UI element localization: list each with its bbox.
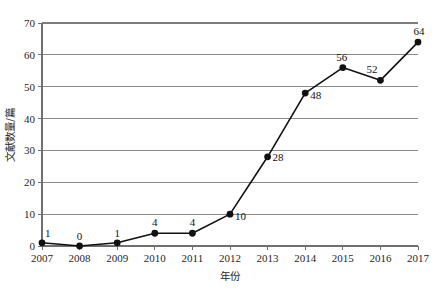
data-point-label-2010: 4 <box>152 216 158 228</box>
chart-background <box>0 0 441 293</box>
x-tick-label-2009: 2009 <box>106 252 129 264</box>
x-tick-label-2013: 2013 <box>257 252 280 264</box>
data-point-label-2016: 52 <box>366 63 377 75</box>
data-point-2016 <box>377 77 384 84</box>
y-tick-label-20: 20 <box>24 176 36 188</box>
line-chart: 010203040506070 200720082009201020112012… <box>0 0 441 293</box>
y-tick-label-70: 70 <box>24 17 36 29</box>
data-point-2015 <box>339 64 346 71</box>
x-tick-label-2015: 2015 <box>332 252 355 264</box>
data-point-2010 <box>151 230 158 237</box>
x-tick-label-2011: 2011 <box>182 252 204 264</box>
x-tick-label-2008: 2008 <box>69 252 92 264</box>
data-point-label-2014: 48 <box>310 89 322 101</box>
y-tick-label-50: 50 <box>24 81 36 93</box>
data-point-label-2013: 28 <box>273 151 285 163</box>
data-point-2009 <box>114 239 121 246</box>
data-point-label-2017: 64 <box>414 25 426 37</box>
data-point-2013 <box>264 153 271 160</box>
data-point-label-2009: 1 <box>114 227 120 239</box>
data-point-2011 <box>189 230 196 237</box>
data-point-label-2008: 0 <box>77 230 83 242</box>
y-tick-label-30: 30 <box>24 144 36 156</box>
data-point-label-2007: 1 <box>45 227 51 239</box>
x-tick-label-2016: 2016 <box>369 252 392 264</box>
data-point-2017 <box>415 39 422 46</box>
x-tick-label-2014: 2014 <box>294 252 317 264</box>
data-point-label-2012: 10 <box>235 210 247 222</box>
data-point-2007 <box>39 239 46 246</box>
data-point-2014 <box>302 90 309 97</box>
data-point-label-2011: 4 <box>190 216 196 228</box>
chart-container: 010203040506070 200720082009201020112012… <box>0 0 441 293</box>
x-axis-title: 年份 <box>220 270 241 282</box>
y-tick-label-10: 10 <box>24 208 36 220</box>
y-tick-label-60: 60 <box>24 49 36 61</box>
y-tick-label-40: 40 <box>24 113 36 125</box>
y-axis-title: 文献数量/篇 <box>4 108 16 162</box>
data-point-2008 <box>76 243 83 250</box>
x-tick-label-2007: 2007 <box>31 252 54 264</box>
y-tick-label-0: 0 <box>30 240 36 252</box>
x-tick-label-2012: 2012 <box>219 252 241 264</box>
data-point-label-2015: 56 <box>336 51 348 63</box>
x-tick-label-2010: 2010 <box>144 252 167 264</box>
x-tick-label-2017: 2017 <box>407 252 430 264</box>
data-point-2012 <box>227 211 234 218</box>
